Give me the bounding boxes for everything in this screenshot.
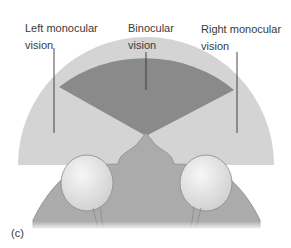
visual-field-diagram: Left monocular vision Binocular vision R… xyxy=(0,0,291,248)
right-monocular-label: Right monocular vision xyxy=(201,21,281,55)
panel-label: (c) xyxy=(11,225,24,242)
binocular-label: Binocular vision xyxy=(128,20,174,54)
left-monocular-label: Left monocular vision xyxy=(25,20,98,54)
